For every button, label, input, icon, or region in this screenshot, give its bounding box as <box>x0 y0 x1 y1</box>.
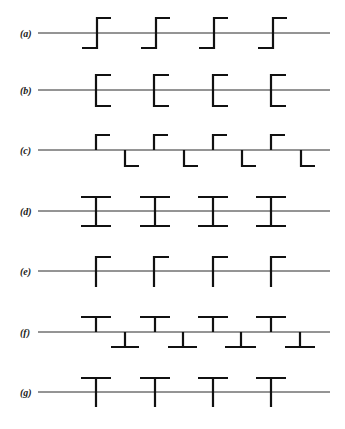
upper-tee-shape <box>140 317 170 332</box>
lower-corner-shape <box>242 150 256 166</box>
row-label-b: (b) <box>20 85 32 97</box>
row-f: (f) <box>20 317 330 347</box>
upper-corner-shape <box>154 135 168 150</box>
upper-tee-shape <box>81 317 111 332</box>
lower-tee-shape <box>111 332 139 347</box>
flag-shape <box>96 257 111 287</box>
row-label-d: (d) <box>20 206 32 218</box>
row-e: (e) <box>20 257 330 287</box>
lower-tee-shape <box>285 332 315 347</box>
upper-corner-shape <box>213 135 227 150</box>
row-g: (g) <box>20 378 330 407</box>
row-label-g: (g) <box>20 387 32 399</box>
row-label-e: (e) <box>20 266 31 278</box>
lower-corner-shape <box>125 150 139 166</box>
flag-shape <box>213 257 228 287</box>
row-a: (a) <box>20 18 330 48</box>
lower-corner-shape <box>184 150 198 166</box>
lower-tee-shape <box>225 332 256 347</box>
row-label-f: (f) <box>20 327 30 339</box>
pattern-diagram: (a)(b)(c)(d)(e)(f)(g) <box>0 0 345 429</box>
upper-tee-shape <box>256 317 286 332</box>
lower-tee-shape <box>168 332 197 347</box>
row-label-a: (a) <box>20 28 32 40</box>
row-d: (d) <box>20 197 330 226</box>
row-b: (b) <box>20 75 330 106</box>
upper-tee-shape <box>198 317 228 332</box>
row-c: (c) <box>20 135 330 166</box>
flag-shape <box>271 257 286 287</box>
row-label-c: (c) <box>20 145 31 157</box>
upper-corner-shape <box>271 135 285 150</box>
lower-corner-shape <box>301 150 315 166</box>
upper-corner-shape <box>96 135 110 150</box>
flag-shape <box>154 257 169 287</box>
